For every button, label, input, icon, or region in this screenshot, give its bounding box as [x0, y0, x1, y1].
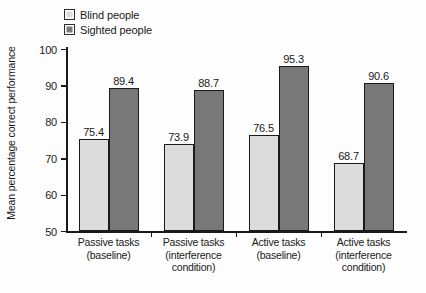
bar-chart-figure: Blind people Sighted people Mean percent… [0, 0, 426, 293]
y-axis-tick-label: 50 [45, 226, 57, 238]
bar-blind-people: 68.7 [334, 163, 364, 231]
y-axis-tick-label: 80 [45, 116, 57, 128]
legend-item-sighted-people: Sighted people [64, 23, 152, 36]
y-axis-tick: 100 [61, 49, 66, 50]
x-axis-group-label-line: (baseline) [66, 249, 151, 262]
bar-value-label: 75.4 [83, 126, 104, 138]
y-axis-tick: 60 [61, 195, 66, 196]
chart-legend: Blind people Sighted people [64, 8, 152, 36]
bar-value-label: 68.7 [338, 150, 359, 162]
bar-blind-people: 73.9 [164, 144, 194, 231]
y-axis-tick: 50 [61, 231, 66, 232]
bar-sighted-people: 89.4 [109, 88, 139, 231]
bar-value-label: 73.9 [168, 131, 189, 143]
x-axis-group-label: Active tasks(baseline) [236, 236, 321, 261]
x-axis-group-label-line: Active tasks [321, 236, 406, 249]
y-axis-tick: 80 [61, 122, 66, 123]
legend-label-blind-people: Blind people [80, 9, 139, 21]
x-axis-group-label-line: (interference [151, 249, 236, 262]
x-axis-group-label-line: condition) [151, 261, 236, 274]
bar-sighted-people: 88.7 [194, 90, 224, 231]
bar-sighted-people: 95.3 [279, 66, 309, 231]
y-axis-tick-label: 60 [45, 189, 57, 201]
bar-value-label: 95.3 [283, 53, 304, 65]
x-axis-group-label: Passive tasks(baseline) [66, 236, 151, 261]
legend-swatch-blind-people [64, 9, 75, 20]
y-axis-tick-label: 100 [39, 44, 57, 56]
y-axis-tick-label: 90 [45, 80, 57, 92]
x-axis-group-label-line: Active tasks [236, 236, 321, 249]
y-axis-tick: 90 [61, 85, 66, 86]
plot-area: 506070809010075.489.473.988.776.595.368.… [66, 49, 406, 231]
legend-item-blind-people: Blind people [64, 8, 152, 21]
bar-value-label: 76.5 [253, 122, 274, 134]
legend-label-sighted-people: Sighted people [80, 24, 152, 36]
bar-value-label: 90.6 [368, 70, 389, 82]
x-axis-group-label-line: condition) [321, 261, 406, 274]
bar-value-label: 88.7 [198, 77, 219, 89]
x-axis-group-label: Passive tasks(interferencecondition) [151, 236, 236, 274]
x-axis-group-label-line: (interference [321, 249, 406, 262]
x-axis-group-label-line: Passive tasks [66, 236, 151, 249]
bar-sighted-people: 90.6 [364, 83, 394, 231]
x-axis-group-label-line: Passive tasks [151, 236, 236, 249]
y-axis-tick: 70 [61, 158, 66, 159]
bar-blind-people: 76.5 [249, 135, 279, 231]
bar-value-label: 89.4 [113, 75, 134, 87]
y-axis-tick-label: 70 [45, 153, 57, 165]
x-axis-group-label: Active tasks(interferencecondition) [321, 236, 406, 274]
y-axis-title: Mean percentage correct performance [3, 33, 19, 233]
x-axis-group-label-line: (baseline) [236, 249, 321, 262]
bar-blind-people: 75.4 [79, 139, 109, 231]
legend-swatch-sighted-people [64, 24, 75, 35]
